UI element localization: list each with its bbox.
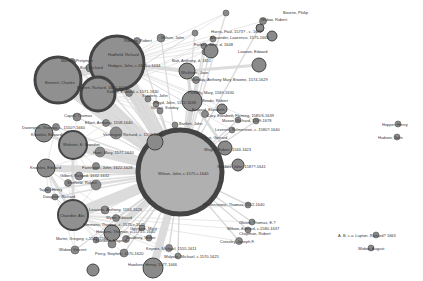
node-label: Gilbert, Richard, 1632-1632 [60,173,110,178]
node-label: Mason, Richard, 1599-1678 [222,118,272,123]
node-label: Leavens, Anthony, 1554-1626 [89,207,143,212]
node-label: Sanders, John [142,93,168,98]
node-label: Wickham, Joan [181,70,208,75]
node-label: Pryce, Gerrard [201,135,227,140]
node-label: Bennett, Charles [45,80,75,85]
node-label: Gilbert, Sunday [151,105,179,110]
node-label: Bondo, Robert [202,98,229,103]
node-label: Harris, Paul, 1573? - c. 1642 [211,29,263,34]
node-label: Alexander, Lawrence, 1575-1663 [210,35,269,40]
node-label: Glover, Thomas, E.? [239,220,276,225]
node-label: Knowles, Edward [31,132,62,137]
node-label: Widow, August [358,246,385,251]
node-label: Pickerly, Mary, 1569-1630 [188,90,235,95]
node-label: Munday, Anthony Mary Browne, 1574-1629 [191,77,268,82]
node-label: Hopper, Henry [382,122,408,127]
node-label: Widow, Robert [261,17,288,22]
node-label: Wright, Robert, 1563-1623 [204,147,252,152]
node-label: Sheffield, Robert [67,180,98,185]
node-label: Elliott, Anthony, 1558-1640 [85,120,133,125]
node-label: Wilson, John, c.1575-c.1640 [158,171,209,176]
node-label: Crossley, Joseph F. [220,239,255,244]
node-label: Rookes, Robert [124,38,153,43]
node-label: Walpole, Michael, c.1570-1625 [164,254,220,259]
node-label: Martha, Pretyman [61,58,93,63]
node-label: Hudson, John [378,135,403,140]
node-label: Stockes, John, 1587?-1641 [217,164,266,169]
node-label: Bartlett, John [179,121,203,126]
node-label: Widow, Vincent [59,247,87,252]
node-label: Featherstone, Thomas, 1552-1640 [203,202,265,207]
node-label: Daughter, Richard [43,194,75,199]
node-label: Davenport, Thomas, c. 1550?-1660 [22,125,86,130]
node-label: Bourne, Philip [283,10,309,15]
node-label: Hawkins, Thomas, c.1575-c.1640 [96,229,156,234]
node-label: Keynes, Michael, 1555-1611 [146,246,197,251]
node-label: Wynn, Edward [106,215,132,220]
node-label: Wilson, John [161,35,184,40]
node-label: Hunt, Mary, 1577-1640 [93,150,134,155]
graph-node-hawkins[interactable] [143,258,163,278]
graph-node[interactable] [223,10,229,16]
graph-node-waterman[interactable] [87,264,99,276]
node-label: Hawkins, Henry, 1577-1646 [128,262,178,267]
node-label: Standish, Roger F. [95,238,128,243]
node-label: Bull, Richard [80,65,103,70]
node-label: Chapman, Robert [239,231,271,236]
node-label: Chandler, Alis [60,213,84,218]
graph-node-warton[interactable] [252,58,266,72]
node-label: Leverett, Pulmerston, c. 1580?-1640 [215,127,280,132]
graph-node[interactable] [192,30,198,36]
node-label: Capell, Thomas [64,113,92,118]
node-label: Everard, Elizabeth [192,107,225,112]
node-label: Lawson, Edward [238,49,268,54]
network-graph: Bourne, PhilipWidow, RobertHarris, Paul,… [0,0,423,281]
node-label: Verstegan, Richard, c. 1550-1640 [103,132,163,137]
node-label: Percy, Stephen, 1570-1620 [95,251,144,256]
node-label: A. B. c.u. Lupton, Richard? 1663 [338,233,397,238]
node-label: Taylor, Henry [39,187,62,192]
node-label: Batt, Anthony, d. 1651 [172,58,212,63]
node-label: Bradbury, Walter [126,235,156,240]
node-label: Hadfield, Richard [108,52,139,57]
graph-node[interactable] [172,122,178,128]
node-label: Forbes, John, d. 1648 [194,42,234,47]
node-label: Farrington, John, 1622-1628 [82,165,133,170]
node-label: Webster, E. Brandon [63,142,100,147]
node-label: Knowles, Edward [30,165,61,170]
node-label: Hodges, John, c.1605-c.1634 [108,63,161,68]
